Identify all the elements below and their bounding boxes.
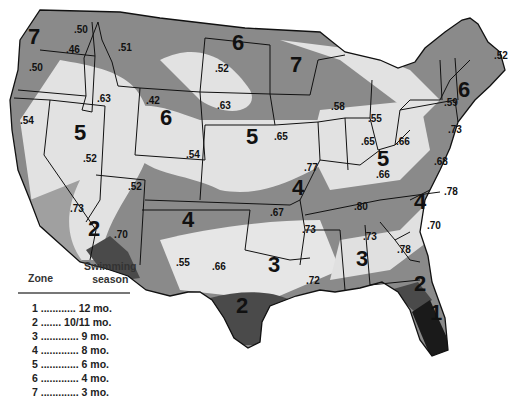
value-label: .52	[494, 50, 508, 61]
zone-label: 1	[430, 300, 442, 325]
value-label: .54	[20, 115, 34, 126]
zone-2-south-texas	[210, 292, 290, 345]
legend-row: 4 ............. 8 mo.	[16, 343, 136, 357]
value-label: .78	[444, 186, 458, 197]
legend-row: 2 ....... 10/11 mo.	[16, 315, 136, 329]
zone-label: 2	[414, 271, 426, 296]
value-label: .80	[354, 201, 368, 212]
zone-label: 7	[290, 52, 302, 77]
legend-season-header-line2: season	[92, 273, 128, 285]
value-label: .65	[361, 136, 375, 147]
zone-label: 3	[268, 252, 280, 277]
zone-label: 7	[28, 24, 40, 49]
value-label: .50	[74, 24, 88, 35]
value-label: .72	[306, 275, 320, 286]
zone-label: 5	[246, 124, 258, 149]
legend-header: Zone Swimming season	[16, 258, 136, 288]
value-label: .55	[176, 257, 190, 268]
value-label: .66	[212, 261, 226, 272]
zone-label: 6	[458, 77, 470, 102]
value-label: .42	[146, 95, 160, 106]
zone-label: 2	[236, 293, 248, 318]
legend-zone-header: Zone	[28, 272, 53, 284]
value-label: .67	[270, 207, 284, 218]
value-label: .66	[396, 136, 410, 147]
legend-season-header-line1: Swimming	[84, 260, 137, 272]
zone-label: 2	[88, 216, 100, 241]
value-label: .73	[448, 124, 462, 135]
value-label: .73	[363, 231, 377, 242]
value-label: .50	[29, 62, 43, 73]
value-label: .73	[70, 203, 84, 214]
value-label: .73	[302, 224, 316, 235]
legend-divider	[18, 292, 130, 294]
value-label: .55	[368, 113, 382, 124]
value-label: .52	[128, 181, 142, 192]
value-label: .51	[118, 42, 132, 53]
legend-row: 6 ............. 4 mo.	[16, 371, 136, 385]
legend-row: 1 ............ 12 mo.	[16, 301, 136, 315]
zone-label: 6	[160, 105, 172, 130]
value-label: .59	[444, 97, 458, 108]
legend-row: 5 ............. 6 mo.	[16, 357, 136, 371]
legend-row: 7 ............. 3 mo.	[16, 385, 136, 399]
value-label: .46	[66, 44, 80, 55]
value-label: .66	[376, 169, 390, 180]
zone-label: 5	[74, 120, 86, 145]
value-label: .65	[274, 131, 288, 142]
value-label: .78	[397, 244, 411, 255]
value-label: .63	[217, 100, 231, 111]
value-label: .54	[186, 149, 200, 160]
legend-season-header: Swimming season	[84, 260, 137, 286]
value-label: .70	[114, 229, 128, 240]
value-label: .63	[97, 93, 111, 104]
zone-label: 3	[356, 246, 368, 271]
value-label: .52	[215, 63, 229, 74]
zone-label: 6	[232, 30, 244, 55]
value-label: .70	[427, 220, 441, 231]
value-label: .58	[331, 101, 345, 112]
legend: Zone Swimming season 1 ............ 12 m…	[16, 258, 136, 399]
zone-label: 4	[182, 207, 195, 232]
value-label: .68	[434, 156, 448, 167]
zone-label: 4	[292, 175, 305, 200]
value-label: .52	[83, 153, 97, 164]
legend-row: 3 ............. 9 mo.	[16, 329, 136, 343]
zone-label: 5	[377, 146, 389, 171]
zone-label: 4	[414, 189, 427, 214]
value-label: .77	[304, 162, 318, 173]
